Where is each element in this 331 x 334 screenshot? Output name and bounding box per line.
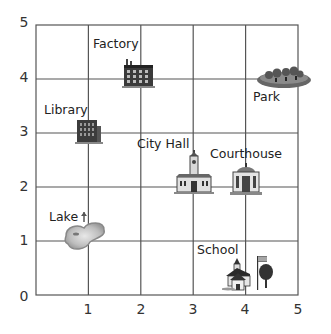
courthouse-icon	[230, 163, 262, 196]
lake-icon	[60, 212, 114, 256]
park-label: Park	[253, 89, 280, 104]
y-tick-2: 2	[20, 178, 29, 194]
library-label: Library	[44, 102, 88, 117]
x-tick-3: 3	[189, 301, 198, 317]
courthouse-label: Courthouse	[210, 146, 282, 161]
y-tick-0: 0	[20, 288, 29, 304]
school-icon	[222, 254, 274, 294]
y-tick-1: 1	[20, 232, 29, 248]
factory-icon	[122, 56, 156, 90]
y-tick-4: 4	[20, 69, 29, 85]
city-hall-icon	[174, 150, 214, 196]
x-tick-5: 5	[294, 301, 303, 317]
y-tick-5: 5	[20, 14, 29, 30]
y-tick-3: 3	[20, 123, 29, 139]
x-tick-1: 1	[84, 301, 93, 317]
x-tick-4: 4	[241, 301, 250, 317]
library-icon	[75, 118, 103, 145]
factory-label: Factory	[93, 36, 139, 51]
x-tick-2: 2	[137, 301, 146, 317]
city-hall-label: City Hall	[137, 136, 189, 151]
park-icon	[255, 64, 313, 90]
coordinate-grid	[0, 0, 331, 334]
